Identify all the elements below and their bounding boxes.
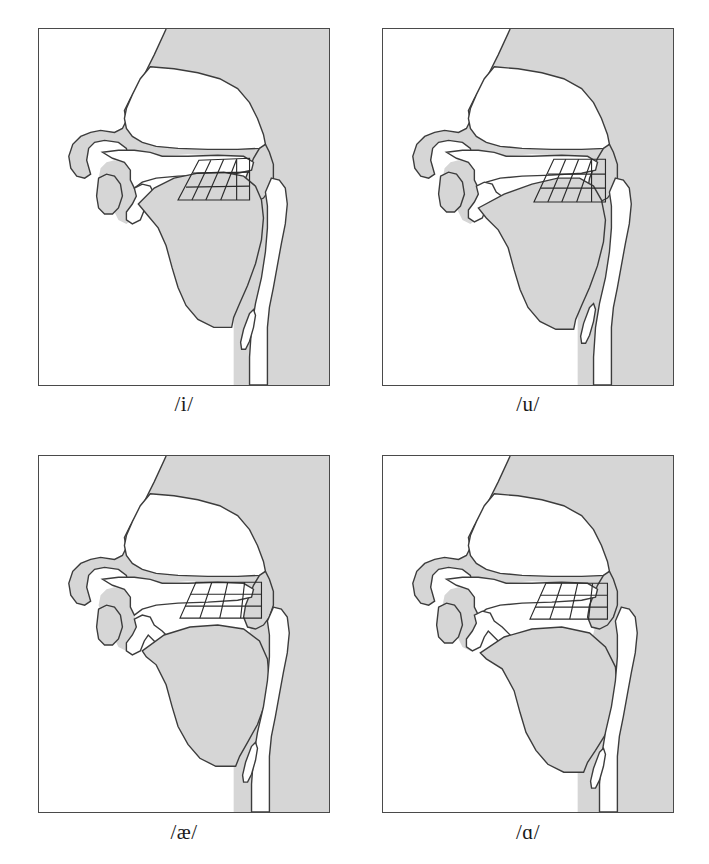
vowel-articulation-figure: /i/ bbox=[0, 0, 709, 864]
vocal-tract-diagram-ae bbox=[39, 456, 329, 812]
panel-u-label: /u/ bbox=[382, 392, 674, 417]
panel-a-frame bbox=[382, 455, 674, 813]
panel-ae-label: /æ/ bbox=[38, 820, 330, 845]
panel-ae-frame bbox=[38, 455, 330, 813]
panel-i-label: /i/ bbox=[38, 392, 330, 417]
vocal-tract-diagram-a bbox=[383, 456, 673, 812]
panel-u: /u/ bbox=[355, 0, 709, 432]
panel-a-label: /ɑ/ bbox=[382, 820, 674, 845]
vocal-tract-diagram-u bbox=[383, 29, 673, 385]
panel-u-frame bbox=[382, 28, 674, 386]
panel-ae: /æ/ bbox=[0, 432, 355, 864]
vocal-tract-diagram-i bbox=[39, 29, 329, 385]
panel-i-frame bbox=[38, 28, 330, 386]
panel-i: /i/ bbox=[0, 0, 355, 432]
panel-a: /ɑ/ bbox=[355, 432, 709, 864]
